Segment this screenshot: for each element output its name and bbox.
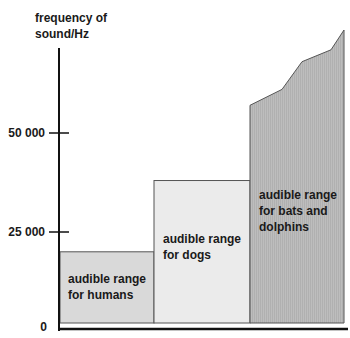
y-axis-label: frequency of — [35, 11, 108, 25]
bar-label-bats-and-dolphins: audible range — [259, 188, 337, 202]
y-tick-label: 25 000 — [8, 225, 45, 239]
bar-bats-and-dolphins — [250, 30, 344, 323]
bar-label-bats-and-dolphins: dolphins — [259, 220, 309, 234]
bar-label-dogs: audible range — [163, 232, 241, 246]
y-axis-label: sound/Hz — [35, 27, 89, 41]
bar-label-dogs: for dogs — [163, 248, 211, 262]
y-tick-label: 50 000 — [8, 126, 45, 140]
bar-label-humans: audible range — [68, 272, 146, 286]
y-tick-label: 0 — [40, 320, 47, 334]
bar-label-bats-and-dolphins: for bats and — [259, 204, 328, 218]
bar-label-humans: for humans — [68, 288, 134, 302]
audible-range-chart: 025 00050 000frequency ofsound/Hzaudible… — [0, 0, 350, 338]
